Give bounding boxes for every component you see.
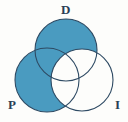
venn-label-i: I [115, 98, 120, 111]
venn-diagram-canvas [0, 0, 128, 122]
venn-shaded-region [0, 0, 128, 122]
venn-label-p: P [8, 98, 16, 111]
venn-label-d: D [61, 3, 70, 16]
venn-diagram-figure: D P I [0, 0, 128, 122]
